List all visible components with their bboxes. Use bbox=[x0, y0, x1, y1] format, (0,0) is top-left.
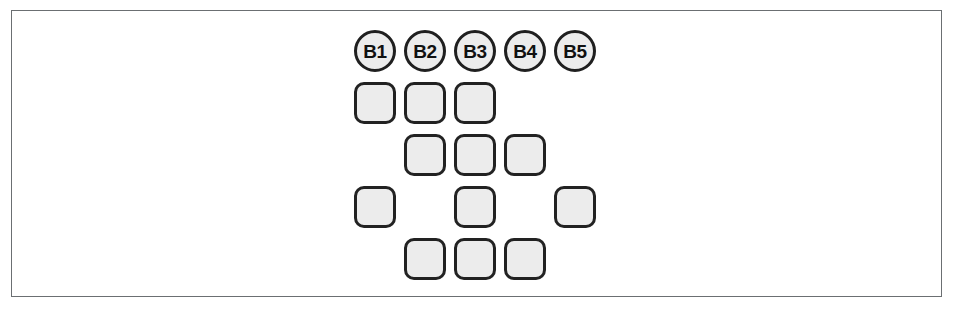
grid-square-r2-c0[interactable] bbox=[354, 186, 396, 228]
header-node-b1[interactable]: B1 bbox=[354, 30, 396, 72]
header-node-b2[interactable]: B2 bbox=[404, 30, 446, 72]
header-node-b5[interactable]: B5 bbox=[554, 30, 596, 72]
header-node-label: B2 bbox=[413, 42, 437, 61]
header-node-label: B5 bbox=[563, 42, 587, 61]
grid-square-r1-c2[interactable] bbox=[454, 134, 496, 176]
header-node-b3[interactable]: B3 bbox=[454, 30, 496, 72]
grid-square-r3-c3[interactable] bbox=[504, 238, 546, 280]
grid-square-r0-c2[interactable] bbox=[454, 82, 496, 124]
grid-square-r0-c0[interactable] bbox=[354, 82, 396, 124]
grid-square-r0-c1[interactable] bbox=[404, 82, 446, 124]
grid-square-r3-c1[interactable] bbox=[404, 238, 446, 280]
header-node-label: B4 bbox=[513, 42, 537, 61]
figure-root: B1B2B3B4B5 bbox=[0, 0, 953, 310]
header-node-label: B3 bbox=[463, 42, 487, 61]
diagram-canvas: B1B2B3B4B5 bbox=[0, 0, 953, 310]
header-node-label: B1 bbox=[363, 42, 387, 61]
grid-square-r2-c2[interactable] bbox=[454, 186, 496, 228]
header-node-b4[interactable]: B4 bbox=[504, 30, 546, 72]
grid-square-r2-c4[interactable] bbox=[554, 186, 596, 228]
grid-square-r1-c1[interactable] bbox=[404, 134, 446, 176]
grid-square-r3-c2[interactable] bbox=[454, 238, 496, 280]
grid-square-r1-c3[interactable] bbox=[504, 134, 546, 176]
